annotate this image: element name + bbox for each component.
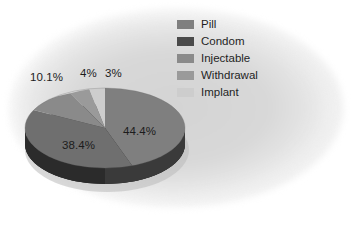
data-label-withdrawal: 4%: [80, 67, 97, 79]
legend-swatch-implant: [177, 88, 194, 97]
legend-label-withdrawal: Withdrawal: [201, 69, 258, 82]
legend-label-pill: Pill: [201, 18, 216, 31]
legend-swatch-withdrawal: [177, 71, 194, 80]
legend-item-withdrawal[interactable]: Withdrawal: [177, 67, 297, 84]
data-label-implant: 3%: [105, 67, 122, 79]
data-label-injectable: 10.1%: [30, 71, 63, 83]
chart-canvas: 10.1% 4% 3% 44.4% 38.4% Pill Condom Inje…: [0, 0, 354, 227]
legend-item-injectable[interactable]: Injectable: [177, 50, 297, 67]
legend-swatch-condom: [177, 37, 194, 46]
legend-swatch-injectable: [177, 54, 194, 63]
legend: Pill Condom Injectable Withdrawal Implan…: [177, 16, 297, 101]
legend-item-condom[interactable]: Condom: [177, 33, 297, 50]
legend-swatch-pill: [177, 20, 194, 29]
data-label-condom: 38.4%: [62, 139, 95, 151]
legend-label-injectable: Injectable: [201, 52, 250, 65]
legend-item-implant[interactable]: Implant: [177, 84, 297, 101]
data-label-pill: 44.4%: [123, 125, 156, 137]
legend-label-implant: Implant: [201, 86, 239, 99]
legend-label-condom: Condom: [201, 35, 244, 48]
legend-item-pill[interactable]: Pill: [177, 16, 297, 33]
